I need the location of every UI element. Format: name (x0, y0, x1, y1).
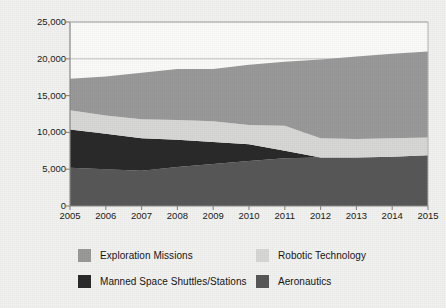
stacked-areas (70, 51, 428, 206)
legend-item[interactable]: Aeronautics (256, 274, 331, 289)
x-tick-label: 2014 (382, 210, 403, 221)
legend-label: Exploration Missions (100, 250, 193, 261)
legend-swatch (78, 275, 91, 288)
x-tick-label: 2006 (95, 210, 116, 221)
legend-item[interactable]: Exploration Missions (78, 248, 193, 263)
x-tick-label: 2015 (417, 210, 438, 221)
x-tick-label: 2011 (275, 210, 295, 221)
legend-label: Aeronautics (278, 276, 331, 287)
legend-label: Manned Space Shuttles/Stations (100, 276, 247, 287)
legend-swatch (78, 249, 91, 262)
x-tick-label: 2010 (238, 210, 259, 221)
legend-swatch (256, 249, 269, 262)
x-tick-label: 2005 (59, 210, 80, 221)
chart-root: In millions of dollars 05,00010,00015,00… (0, 0, 446, 308)
legend-item[interactable]: Robotic Technology (256, 248, 366, 263)
x-tick-label: 2008 (167, 210, 188, 221)
x-tick-label: 2013 (346, 210, 367, 221)
x-tick-label: 2007 (131, 210, 152, 221)
legend-label: Robotic Technology (278, 250, 366, 261)
legend-swatch (256, 275, 269, 288)
x-tick-label: 2009 (203, 210, 224, 221)
x-tick-label: 2012 (310, 210, 331, 221)
chart-legend: Exploration MissionsRobotic TechnologyMa… (70, 248, 446, 296)
legend-item[interactable]: Manned Space Shuttles/Stations (78, 274, 247, 289)
